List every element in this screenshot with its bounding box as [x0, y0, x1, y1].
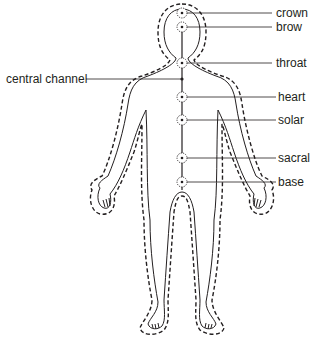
chakra-label-solar: solar	[278, 113, 304, 127]
chakra-label-brow: brow	[276, 20, 302, 34]
chakra-label-throat: throat	[276, 56, 307, 70]
chakra-label-heart: heart	[278, 90, 306, 104]
chakra-label-crown: crown	[276, 6, 308, 20]
chakra-solar: solar	[177, 113, 304, 127]
chakra-throat: throat	[177, 56, 307, 70]
central-channel-label: central channel	[6, 72, 87, 86]
chakra-body-diagram: central channel crown brow throat heart …	[0, 0, 315, 355]
chakra-sacral: sacral	[177, 151, 310, 165]
chakra-label-sacral: sacral	[278, 151, 310, 165]
chakra-label-base: base	[278, 175, 304, 189]
chakra-brow: brow	[177, 20, 302, 34]
chakra-heart: heart	[177, 90, 306, 104]
